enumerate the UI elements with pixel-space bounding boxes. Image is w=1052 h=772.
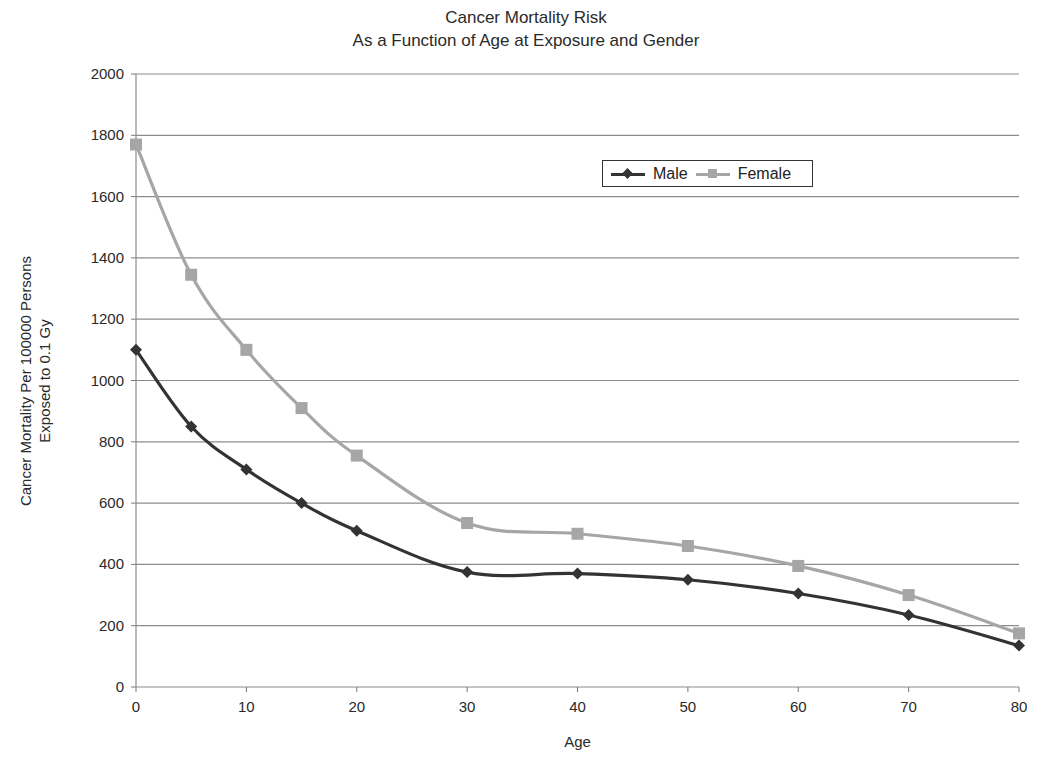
x-tick-label: 30 [459,698,476,715]
y-tick-label: 800 [99,433,124,450]
square-marker-icon [792,560,804,572]
legend-item-male: Male [611,165,688,183]
y-tick-label: 2000 [91,65,124,82]
y-tick-label: 1000 [91,372,124,389]
series-male [130,344,1025,652]
x-tick-label: 50 [680,698,697,715]
y-tick-label: 400 [99,555,124,572]
y-tick-label: 200 [99,617,124,634]
y-tick-label: 0 [116,678,124,695]
square-marker-icon [240,344,252,356]
y-axis-ticks: 0200400600800100012001400160018002000 [91,65,124,695]
line-chart: 0200400600800100012001400160018002000 01… [0,0,1052,772]
diamond-marker-icon [682,574,694,586]
square-marker-icon [682,540,694,552]
diamond-marker-icon [792,588,804,600]
y-tick-label: 1800 [91,126,124,143]
diamond-marker-icon [903,609,915,621]
x-tick-label: 0 [132,698,140,715]
diamond-marker-icon [1013,640,1025,652]
data-series [130,138,1025,651]
square-marker-icon [351,450,363,462]
x-tick-label: 20 [348,698,365,715]
x-tick-label: 70 [900,698,917,715]
legend-label-male: Male [653,165,688,183]
x-tick-label: 40 [569,698,586,715]
square-marker-icon [130,138,142,150]
y-tick-label: 1200 [91,310,124,327]
x-axis-ticks: 01020304050607080 [132,698,1028,715]
y-tick-label: 600 [99,494,124,511]
y-tick-label: 1600 [91,188,124,205]
square-marker-icon [461,517,473,529]
square-marker-icon [296,402,308,414]
diamond-marker-icon [572,568,584,580]
square-marker-icon [1013,627,1025,639]
diamond-marker-icon [296,497,308,509]
square-marker-icon [572,528,584,540]
square-marker-icon [696,167,730,181]
square-marker-icon [185,269,197,281]
legend: Male Female [602,160,813,187]
square-marker-icon [903,589,915,601]
diamond-marker-icon [461,566,473,578]
axes [131,74,1019,692]
x-axis-label: Age [0,733,1052,750]
legend-item-female: Female [696,165,791,183]
diamond-marker-icon [351,525,363,537]
gridlines [136,74,1019,626]
legend-label-female: Female [738,165,791,183]
y-tick-label: 1400 [91,249,124,266]
x-tick-label: 10 [238,698,255,715]
diamond-marker-icon [611,167,645,181]
x-tick-label: 60 [790,698,807,715]
x-tick-label: 80 [1011,698,1028,715]
